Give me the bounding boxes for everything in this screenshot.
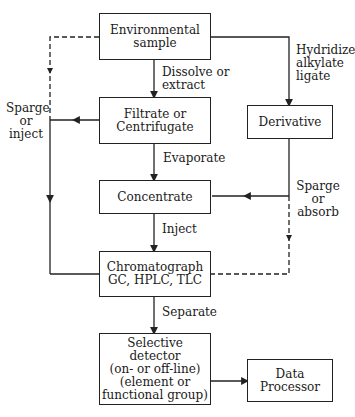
node-label: Environmental sample <box>110 24 200 50</box>
node-label: Chromatograph GC, HPLC, TLC <box>107 261 203 287</box>
node-selective-detector: Selective detector (on- or off-line) (el… <box>99 333 211 405</box>
node-label: Derivative <box>259 116 322 129</box>
node-label: Filtrate or Centrifugate <box>116 108 193 134</box>
node-environmental-sample: Environmental sample <box>99 13 211 60</box>
node-filtrate: Filtrate or Centrifugate <box>99 97 211 144</box>
node-chromatograph: Chromatograph GC, HPLC, TLC <box>99 251 211 297</box>
edge-label-separate: Separate <box>162 306 217 319</box>
edge-label-sparge-absorb: Sparge or absorb <box>293 180 343 219</box>
node-label: Data Processor <box>260 368 320 394</box>
node-data-processor: Data Processor <box>247 359 333 402</box>
edge-label-sparge-inject: Sparge or inject <box>6 102 46 141</box>
node-label: Concentrate <box>117 191 192 204</box>
edge-label-hydridize: Hydridize alkylate ligate <box>296 44 355 83</box>
edge-label-inject: Inject <box>162 223 197 236</box>
node-concentrate: Concentrate <box>99 180 211 214</box>
node-derivative: Derivative <box>247 105 333 139</box>
node-label: Selective detector (on- or off-line) (el… <box>102 337 208 402</box>
edge-label-evaporate: Evaporate <box>163 152 225 165</box>
edge-label-dissolve: Dissolve or extract <box>162 66 230 92</box>
